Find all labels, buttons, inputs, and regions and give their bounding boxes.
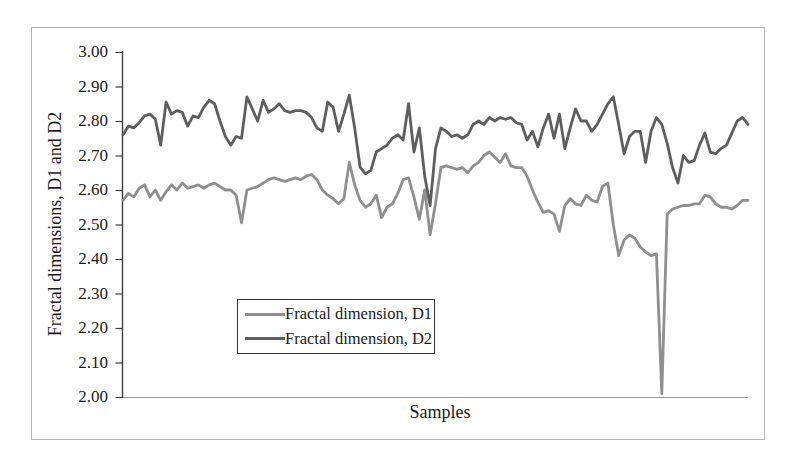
- y-tick-label: 2.60: [40, 181, 108, 199]
- x-axis-title: Samples: [410, 402, 471, 423]
- y-tick-label: 2.00: [40, 388, 108, 406]
- series-line-d1: [123, 152, 748, 393]
- legend-line-swatch-d2: [245, 337, 285, 341]
- legend-label-d2: Fractal dimension, D2: [285, 329, 432, 349]
- y-tick-label: 2.70: [40, 147, 108, 165]
- y-tick-label: 2.20: [40, 319, 108, 337]
- legend-label-d1: Fractal dimension, D1: [285, 304, 432, 324]
- y-tick-label: 2.50: [40, 216, 108, 234]
- legend-item-d1: Fractal dimension, D1: [245, 304, 434, 324]
- y-tick-label: 3.00: [40, 43, 108, 61]
- y-tick-label: 2.30: [40, 285, 108, 303]
- y-tick-label: 2.80: [40, 112, 108, 130]
- y-tick-label: 2.90: [40, 78, 108, 96]
- legend-line-swatch-d1: [245, 313, 285, 317]
- figure-canvas: Fractal dimensions, D1 and D2 Samples 3.…: [0, 0, 788, 465]
- y-tick-label: 2.40: [40, 250, 108, 268]
- plot-area: [0, 0, 788, 465]
- series-line-d2: [123, 95, 748, 205]
- legend: Fractal dimension, D1 Fractal dimension,…: [237, 299, 435, 354]
- y-tick-label: 2.10: [40, 354, 108, 372]
- legend-item-d2: Fractal dimension, D2: [245, 329, 434, 349]
